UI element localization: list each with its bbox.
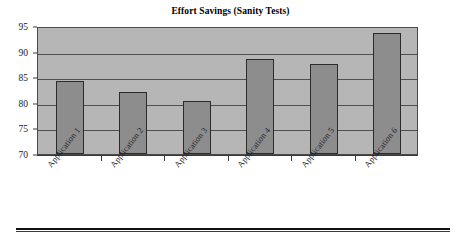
y-tick-label: 75 [19,124,29,134]
y-tick-label: 90 [19,48,29,58]
chart-title: Effort Savings (Sanity Tests) [0,6,461,16]
x-tick-mark [355,156,356,161]
y-axis: 707580859095 [0,27,33,155]
bottom-rule-secondary [16,231,450,232]
bottom-rule [16,228,450,230]
x-tick-mark [228,156,229,161]
y-tick-label: 70 [19,150,29,160]
x-tick-mark [291,156,292,161]
gridline [38,130,417,131]
gridline [38,105,417,106]
gridline [38,79,417,80]
y-tick-label: 95 [19,22,29,32]
x-tick-mark [164,156,165,161]
y-tick-label: 85 [19,73,29,83]
x-tick-mark [101,156,102,161]
gridline [38,54,417,55]
y-tick-label: 80 [19,99,29,109]
chart-figure: Effort Savings (Sanity Tests) 7075808590… [0,0,461,242]
plot-area [37,27,418,155]
